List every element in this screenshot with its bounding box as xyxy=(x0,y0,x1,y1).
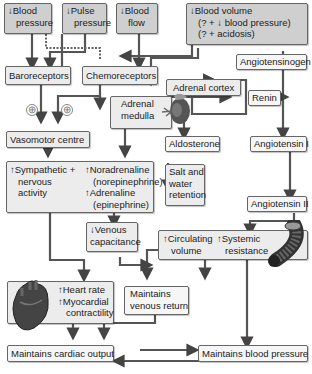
node-sympathetic-activity: ↑Sympathetic + nervous activity ↑Noradre… xyxy=(6,161,154,213)
plus-sign-icon: ⊕ xyxy=(61,104,73,116)
node-angiotensinogen: Angiotensinogen xyxy=(236,54,307,70)
node-blood-volume: ↓Blood volume (? + ↓ blood pressure) (? … xyxy=(186,3,308,45)
heart-icon xyxy=(8,278,58,338)
node-chemoreceptors: Chemoreceptors xyxy=(82,66,158,85)
node-maintains-venous-return: Maintains venous return xyxy=(124,286,189,315)
node-venous-capacitance: ↓Venous capacitance xyxy=(86,222,138,252)
node-blood-pressure: ↓Blood pressure xyxy=(4,3,52,34)
node-pulse-pressure: ↓Pulse pressure xyxy=(62,3,107,34)
plus-sign-icon: ⊕ xyxy=(26,104,38,116)
node-maintains-cardiac-output: Maintains cardiac output xyxy=(7,345,114,362)
node-renin: Renin xyxy=(248,90,281,106)
node-aldosterone: Aldosterone xyxy=(165,136,220,152)
node-angiotensin-1: Angiotensin I xyxy=(250,136,307,152)
node-angiotensin-2: Angiotensin II xyxy=(247,196,307,212)
kidney-adrenal-icon xyxy=(162,92,192,126)
node-salt-water-retention: Salt and water retention xyxy=(165,164,205,206)
blood-vessel-icon xyxy=(262,220,310,268)
node-vasomotor-centre: Vasomotor centre xyxy=(6,131,90,148)
node-blood-flow: ↓Blood flow xyxy=(116,3,158,34)
node-maintains-blood-pressure: Maintains blood pressure xyxy=(198,345,308,362)
node-baroreceptors: Baroreceptors xyxy=(5,66,71,85)
